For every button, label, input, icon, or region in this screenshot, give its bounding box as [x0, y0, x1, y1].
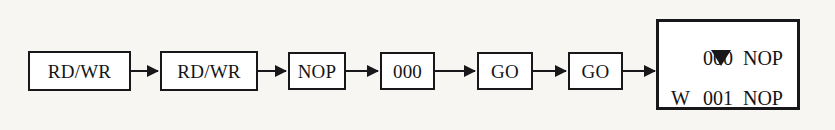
flow-node-2-label: RD/WR [177, 62, 240, 81]
display-row-1-operation: NOP [743, 48, 783, 68]
flow-node-1[interactable]: RD/WR [28, 51, 131, 91]
display-row-2: W 001 NOP [671, 88, 783, 108]
triangle-down-icon [671, 28, 701, 88]
arrow-right-icon-2 [258, 70, 286, 72]
flow-node-1-label: RD/WR [48, 62, 111, 81]
arrow-right-icon-4 [435, 70, 475, 72]
flow-node-3-label: NOP [298, 62, 337, 81]
arrow-right-icon-1 [131, 70, 158, 72]
display-row-1: 000 NOP [671, 28, 783, 88]
flow-node-5-label: GO [491, 62, 519, 81]
flow-node-2[interactable]: RD/WR [160, 51, 258, 91]
arrow-right-icon-6 [623, 70, 655, 72]
display-row-2-marker: W [671, 88, 695, 108]
flow-node-4-label: 000 [393, 62, 422, 81]
flow-node-5[interactable]: GO [477, 52, 533, 90]
flow-node-6-label: GO [582, 62, 610, 81]
flow-node-3[interactable]: NOP [288, 52, 346, 90]
flow-node-6[interactable]: GO [568, 52, 623, 90]
flow-node-4[interactable]: 000 [380, 52, 435, 90]
arrow-right-icon-3 [346, 70, 378, 72]
display-row-2-operation: NOP [743, 88, 783, 108]
arrow-right-icon-5 [533, 70, 566, 72]
diagram-canvas: RD/WR RD/WR NOP 000 GO GO 000 NOP W 001 … [0, 0, 835, 130]
display-row-2-address: 001 [695, 88, 743, 108]
display-panel[interactable]: 000 NOP W 001 NOP [656, 19, 800, 110]
